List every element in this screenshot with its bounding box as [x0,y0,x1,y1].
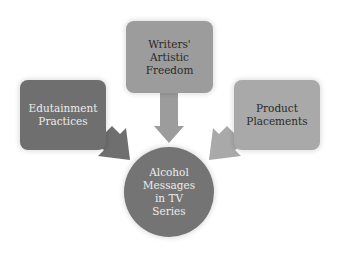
node-product-placements: Product Placements [234,80,320,150]
node-writers-artistic-freedom: Writers' Artistic Freedom [126,21,213,93]
center-node-alcohol-messages: Alcohol Messages in TV Series [124,147,214,237]
node-label: Edutainment Practices [29,102,98,128]
node-label: Product Placements [246,102,307,128]
arrow-top-to-center [154,93,184,143]
center-label: Alcohol Messages in TV Series [143,166,195,218]
node-edutainment-practices: Edutainment Practices [20,80,106,150]
influence-diagram: Edutainment Practices Writers' Artistic … [0,0,339,255]
node-label: Writers' Artistic Freedom [146,38,194,77]
